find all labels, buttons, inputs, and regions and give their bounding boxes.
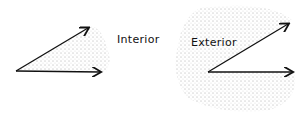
interior-label: Interior: [117, 33, 160, 46]
interior-shading: [16, 26, 110, 72]
interior-figure: [16, 26, 110, 72]
diagram-canvas: [0, 0, 303, 114]
exterior-shading: [176, 6, 295, 112]
exterior-label: Exterior: [191, 36, 237, 49]
angle-regions-diagram: Interior Exterior: [0, 0, 303, 114]
exterior-figure: [176, 6, 295, 112]
